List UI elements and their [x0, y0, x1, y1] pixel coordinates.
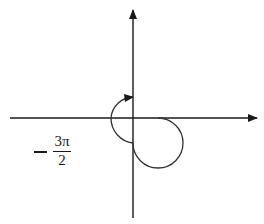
- minus-sign: [34, 151, 47, 153]
- fraction-numerator: 3π: [54, 134, 69, 149]
- angle-fraction: 3π 2: [53, 134, 71, 168]
- angle-label: 3π 2: [34, 134, 71, 168]
- diagram-canvas: 3π 2: [0, 0, 264, 224]
- axes-diagram: [0, 0, 264, 224]
- fraction-denominator: 2: [58, 153, 66, 168]
- rotation-arc-arrow-icon: [111, 97, 183, 168]
